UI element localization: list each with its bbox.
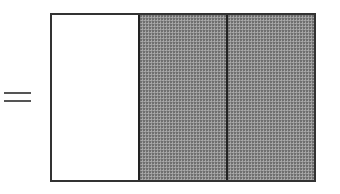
- fraction-part-3-shaded: [226, 15, 314, 180]
- equals-sign-bottom-bar: [4, 100, 31, 102]
- equals-sign-top-bar: [4, 92, 31, 94]
- fraction-part-1-unshaded: [52, 15, 138, 180]
- equals-sign: [4, 92, 31, 103]
- fraction-part-2-shaded: [138, 15, 226, 180]
- fraction-bar-model: [50, 13, 316, 182]
